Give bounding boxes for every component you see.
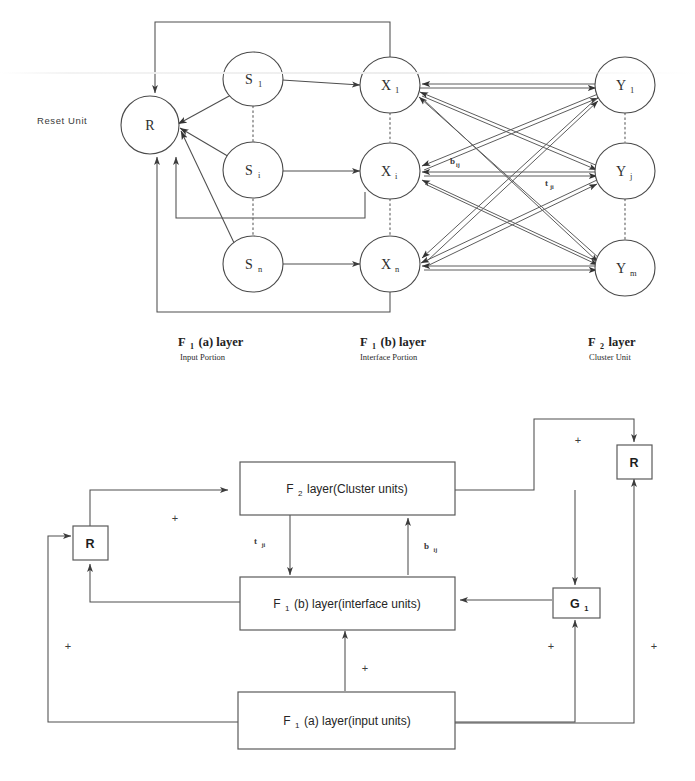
reset-unit-caption: Reset Unit: [37, 115, 87, 126]
caption-f1b-sub: Interface Portion: [360, 352, 418, 362]
ellipsis-dotted-connectors: [253, 106, 625, 240]
node-x1-subscript: 1: [395, 85, 399, 95]
edge-reset-left-to-f2: [90, 490, 228, 526]
node-sn[interactable]: [223, 236, 283, 292]
plus-sign-f1a-to-f1b: +: [362, 662, 368, 674]
plus-sign-f2-to-reset-right: +: [575, 434, 581, 446]
f2-layer-nodes: Y 1 Y j Y m: [595, 57, 655, 296]
plus-sign-f1a-to-reset-left: +: [65, 640, 71, 652]
node-si[interactable]: [223, 142, 283, 198]
edges-f1b-f2-bidirectional: [418, 84, 599, 270]
weight-bij-label: b: [450, 156, 455, 166]
node-sn-label: S: [245, 257, 253, 272]
caption-f1a-layer: F 1 (a) layer: [178, 332, 244, 352]
node-s1[interactable]: [223, 52, 283, 106]
node-ym-label: Y: [616, 261, 626, 276]
weight-tji-label-bottom: t ji: [254, 530, 265, 548]
edge-f2-to-reset-right: [455, 419, 634, 490]
plus-sign-reset-left-input: +: [172, 512, 178, 524]
edge-f1a-to-reset-right: [455, 479, 634, 723]
node-yj-subscript: j: [629, 171, 632, 181]
caption-f2-layer: F 2 layer: [588, 332, 636, 352]
plus-sign-f1a-to-reset-right: +: [651, 640, 657, 652]
f1b-layer-nodes: X 1 X i X n: [360, 57, 420, 292]
weight-tji-subscript: ji: [549, 184, 554, 190]
node-s1-label: S: [245, 72, 253, 87]
plus-sign-f1a-to-gain-unit: +: [548, 640, 554, 652]
reset-unit-node-label: R: [145, 118, 155, 133]
art1-supplemental-block-diagram: F 2 layer(Cluster units) F 1 (b) layer(i…: [0, 392, 695, 781]
caption-f1b-layer: F 1 (b) layer: [360, 332, 426, 352]
node-ym-subscript: m: [630, 268, 637, 278]
edge-f1a-to-gain-unit: [455, 620, 575, 722]
node-xn-label: X: [381, 257, 391, 272]
node-s1-subscript: 1: [258, 79, 262, 89]
edges-f1a-to-f1b: [282, 80, 360, 264]
node-y1-label: Y: [616, 78, 626, 93]
node-yj-label: Y: [616, 164, 626, 179]
caption-f1a-sub: Input Portion: [180, 352, 226, 362]
layer-captions: F 1 (a) layer Input Portion F 1 (b) laye…: [178, 332, 636, 362]
reset-right-box-label: R: [629, 456, 638, 470]
node-si-label: S: [245, 163, 253, 178]
edge-f1a-to-reset-left: [48, 536, 238, 722]
f1a-layer-nodes: S 1 S i S n: [223, 52, 283, 292]
node-xi-label: X: [381, 164, 391, 179]
figure-canvas: R Reset Unit S 1 S i S n X 1 X i X n: [0, 0, 695, 781]
node-y1-subscript: 1: [630, 85, 634, 95]
node-x1-label: X: [381, 78, 391, 93]
weight-bij-label-bottom: b ij: [424, 535, 437, 553]
art1-network-architecture-diagram: R Reset Unit S 1 S i S n X 1 X i X n: [0, 0, 695, 392]
weight-tji-label: t: [545, 178, 548, 188]
caption-f2-sub: Cluster Unit: [589, 352, 631, 362]
edge-f1b-to-reset-left: [90, 564, 248, 602]
weight-bij-subscript: ij: [456, 162, 460, 168]
reset-left-box-label: R: [85, 537, 94, 551]
